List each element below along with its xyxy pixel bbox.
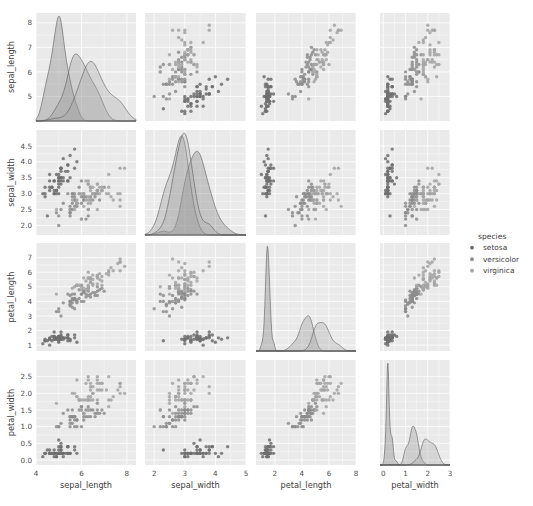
- pair-panel-sepal_width-petal_width: [380, 130, 450, 235]
- legend-marker-virginica[interactable]: [470, 269, 474, 273]
- pair-panel-petal_width-petal_length: [256, 360, 356, 465]
- pair-panel-petal_length-petal_length: [256, 243, 356, 351]
- y-tick-label: 3.0: [21, 189, 33, 198]
- pair-panel-petal_length-sepal_length: [36, 243, 136, 351]
- pair-panel-sepal_length-sepal_width: [145, 13, 246, 121]
- y-tick-label: 5: [27, 92, 32, 101]
- y-tick-label: 6: [27, 268, 32, 277]
- legend: speciessetosaversicolorvirginica: [470, 232, 520, 275]
- y-tick-label: 2.0: [21, 221, 33, 230]
- x-tick-label: 4: [34, 469, 39, 478]
- pair-panel-petal_width-sepal_width: [145, 360, 246, 465]
- y-tick-label: 2.0: [21, 389, 33, 398]
- y-axis-title: petal_width: [6, 389, 16, 436]
- pair-panel-petal_length-sepal_width: [145, 243, 246, 351]
- y-tick-label: 3.5: [21, 173, 32, 182]
- pair-panel-petal_width-sepal_length: [36, 360, 136, 465]
- pair-panel-sepal_length-petal_length: [256, 13, 356, 121]
- y-tick-label: 7: [27, 253, 32, 262]
- legend-marker-setosa[interactable]: [470, 246, 474, 250]
- legend-label-virginica[interactable]: virginica: [483, 266, 514, 275]
- y-tick-label: 1.5: [21, 406, 32, 415]
- x-tick-label: 8: [354, 469, 359, 478]
- pair-panel-petal_length-petal_width: [380, 243, 450, 351]
- x-tick-label: 4: [213, 469, 218, 478]
- x-axis-title: sepal_width: [171, 480, 219, 490]
- y-tick-label: 0.0: [21, 456, 33, 465]
- x-axis-title: sepal_length: [60, 480, 112, 490]
- x-tick-label: 3: [183, 469, 188, 478]
- x-axis-title: petal_width: [391, 480, 438, 490]
- legend-marker-versicolor[interactable]: [470, 257, 474, 261]
- y-tick-label: 4.5: [21, 142, 32, 151]
- x-tick-label: 6: [79, 469, 84, 478]
- y-tick-label: 2: [27, 326, 32, 335]
- y-tick-label: 4: [27, 297, 32, 306]
- x-tick-label: 5: [244, 469, 249, 478]
- y-axis-title: sepal_width: [6, 158, 16, 206]
- legend-label-setosa[interactable]: setosa: [483, 243, 507, 252]
- y-tick-label: 3: [27, 312, 32, 321]
- y-axis-title: petal_length: [6, 272, 16, 323]
- y-tick-label: 2.5: [21, 372, 32, 381]
- x-tick-label: 2: [426, 469, 431, 478]
- y-tick-label: 2.5: [21, 205, 32, 214]
- y-tick-label: 4.0: [21, 157, 33, 166]
- x-tick-label: 6: [327, 469, 332, 478]
- pair-panel-petal_width-petal_width: [380, 360, 450, 465]
- pair-panel-sepal_length-petal_width: [380, 13, 450, 121]
- x-tick-label: 0: [381, 469, 386, 478]
- pair-panel-sepal_width-sepal_length: [36, 130, 136, 235]
- y-tick-label: 6: [27, 68, 32, 77]
- pair-panel-sepal_length-sepal_length: [36, 13, 136, 121]
- x-tick-label: 8: [125, 469, 130, 478]
- x-axis-title: petal_length: [281, 480, 332, 490]
- y-axis-title: sepal_length: [6, 41, 16, 93]
- y-tick-label: 7: [27, 43, 32, 52]
- x-tick-label: 2: [273, 469, 278, 478]
- y-tick-label: 8: [27, 18, 32, 27]
- y-tick-label: 1.0: [21, 422, 33, 431]
- pairplot-svg: 5678sepal_length2.02.53.03.54.04.5sepal_…: [0, 0, 533, 506]
- legend-label-versicolor[interactable]: versicolor: [483, 255, 520, 264]
- y-tick-label: 1: [27, 341, 32, 350]
- x-tick-label: 2: [152, 469, 157, 478]
- y-tick-label: 0.5: [21, 439, 32, 448]
- legend-title: species: [478, 232, 506, 241]
- pair-panel-sepal_width-sepal_width: [145, 130, 246, 235]
- pair-panel-sepal_width-petal_length: [256, 130, 356, 235]
- x-tick-label: 4: [300, 469, 305, 478]
- x-tick-label: 3: [448, 469, 453, 478]
- x-tick-label: 1: [403, 469, 408, 478]
- pairplot-figure: 5678sepal_length2.02.53.03.54.04.5sepal_…: [0, 0, 533, 506]
- y-tick-label: 5: [27, 282, 32, 291]
